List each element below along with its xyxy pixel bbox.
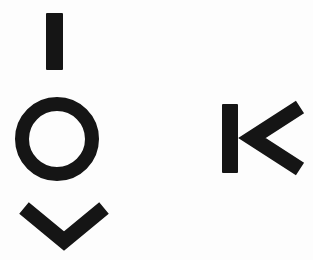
glyph-canvas: Four thick black marks on a white backgr… [0, 0, 313, 260]
k-stem-bar [222, 104, 238, 173]
vertical-bar-glyph [46, 13, 63, 70]
glyph-drawing [0, 0, 313, 260]
